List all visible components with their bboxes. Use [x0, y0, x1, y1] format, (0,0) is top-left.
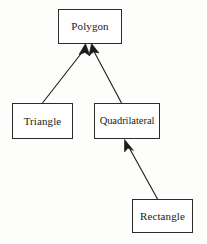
edge-rectangle-to-quadrilateral: [125, 140, 158, 200]
arrowhead-quadrilateral-to-polygon: [89, 44, 99, 56]
edge-line-quadrilateral-to-polygon: [94, 51, 122, 104]
edge-triangle-to-polygon: [43, 44, 91, 104]
class-node-rectangle-label: Rectangle: [140, 211, 185, 222]
class-node-triangle-label: Triangle: [24, 116, 62, 127]
edge-quadrilateral-to-polygon: [89, 44, 122, 104]
edge-line-rectangle-to-quadrilateral: [129, 147, 158, 200]
class-node-quadrilateral-label: Quadrilateral: [100, 116, 155, 127]
class-node-quadrilateral[interactable]: Quadrilateral: [94, 103, 160, 139]
class-node-rectangle[interactable]: Rectangle: [132, 199, 193, 233]
class-diagram-canvas: Polygon Triangle Quadrilateral Rectangle: [0, 0, 207, 244]
arrowhead-triangle-to-polygon: [79, 44, 90, 57]
class-node-triangle[interactable]: Triangle: [12, 103, 73, 139]
edge-line-triangle-to-polygon: [43, 51, 84, 104]
class-node-polygon-label: Polygon: [71, 21, 108, 32]
class-node-polygon[interactable]: Polygon: [58, 9, 122, 44]
arrowhead-rectangle-to-quadrilateral: [125, 140, 134, 153]
